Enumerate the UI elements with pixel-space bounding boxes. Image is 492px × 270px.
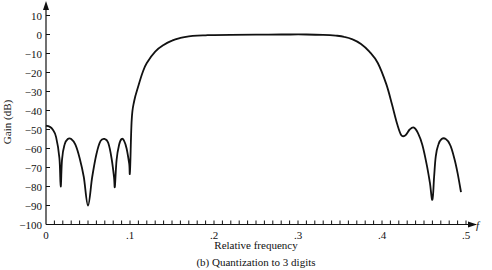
chart-caption: (b) Quantization to 3 digits bbox=[196, 256, 315, 269]
y-tick-label: −40 bbox=[25, 105, 43, 117]
x-tick-label: .5 bbox=[462, 229, 471, 241]
y-tick-label: −80 bbox=[25, 181, 43, 193]
y-tick-label: −50 bbox=[25, 124, 43, 136]
x-tick-label: .1 bbox=[126, 229, 134, 241]
y-tick-label: −20 bbox=[25, 67, 43, 79]
x-tick-label: 0 bbox=[43, 229, 49, 241]
chart: 100−10−20−30−40−50−60−70−80−90−100 0.1.2… bbox=[0, 0, 492, 270]
x-axis-label: Relative frequency bbox=[214, 239, 298, 251]
y-axis-label: Gain (dB) bbox=[1, 100, 14, 145]
y-tick-label: −60 bbox=[25, 143, 43, 155]
x-tick-label: .4 bbox=[378, 229, 387, 241]
y-tick-label: −70 bbox=[25, 162, 43, 174]
x-axis-symbol: f bbox=[476, 219, 481, 231]
y-tick-label: −90 bbox=[25, 200, 43, 212]
y-tick-label: −10 bbox=[25, 48, 43, 60]
y-axis: 100−10−20−30−40−50−60−70−80−90−100 bbox=[19, 1, 50, 231]
y-tick-label: 0 bbox=[37, 29, 43, 41]
y-axis-arrow-icon bbox=[43, 1, 49, 10]
x-axis: 0.1.2.3.4.5 bbox=[43, 221, 477, 241]
y-tick-label: −100 bbox=[19, 219, 42, 231]
gain-curve bbox=[46, 34, 461, 205]
y-tick-label: −30 bbox=[25, 86, 43, 98]
y-tick-label: 10 bbox=[31, 10, 43, 22]
